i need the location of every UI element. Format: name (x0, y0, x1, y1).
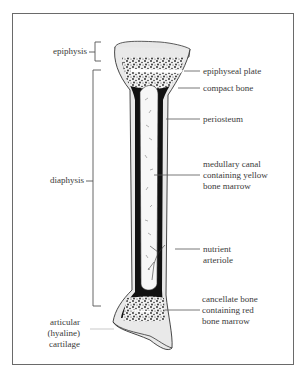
label-compact-bone: compact bone (203, 83, 253, 94)
label-medullary-canal-3: bone marrow (203, 181, 251, 192)
label-cancellate-bone-2: containing red (202, 305, 254, 316)
label-cancellate-bone-3: bone marrow (202, 316, 250, 327)
cancellate-bone-bottom (122, 297, 165, 322)
label-nutrient-arteriole-2: arteriole (203, 255, 233, 266)
label-articular-cartilage-2: (hyaline) (30, 328, 80, 339)
label-cancellate-bone-1: cancellate bone (202, 294, 258, 305)
label-medullary-canal-2: containing yellow (203, 170, 268, 181)
label-articular-cartilage-3: cartilage (30, 339, 80, 350)
diaphysis-bracket (86, 70, 101, 306)
label-epiphysis: epiphysis (30, 46, 87, 57)
label-diaphysis: diaphysis (30, 175, 84, 186)
label-articular-cartilage-1: articular (30, 317, 80, 328)
bone-diagram: epiphysis diaphysis articular (hyaline) … (0, 0, 306, 372)
label-epiphyseal-plate: epiphyseal plate (203, 66, 261, 77)
label-nutrient-arteriole-1: nutrient (203, 244, 231, 255)
epiphysis-bracket (89, 42, 101, 61)
label-periosteum: periosteum (203, 114, 243, 125)
label-medullary-canal-1: medullary canal (203, 159, 261, 170)
